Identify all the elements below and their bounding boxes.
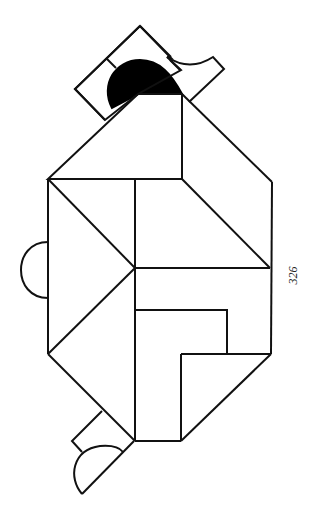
tail-semicircle <box>74 446 123 494</box>
page-number: 326 <box>286 267 301 285</box>
tangram-figure <box>0 0 320 522</box>
left-semicircle <box>21 242 48 298</box>
black-semicircle <box>108 60 182 108</box>
